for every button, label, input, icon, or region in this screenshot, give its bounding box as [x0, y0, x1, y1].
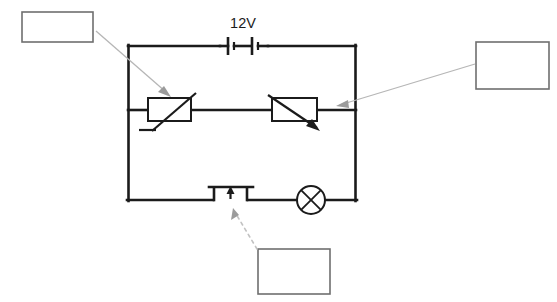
leader-variable-resistor	[336, 64, 475, 108]
lamp-symbol	[297, 186, 325, 214]
leader-switch-line	[236, 214, 257, 249]
callout-box-switch[interactable]	[258, 249, 330, 294]
leader-switch	[231, 208, 257, 249]
variable-resistor-symbol	[268, 95, 320, 131]
leader-thermistor-line	[96, 31, 166, 92]
circuit-svg: 12V	[0, 0, 557, 302]
battery-symbol	[220, 37, 268, 55]
callout-switch-rect[interactable]	[258, 249, 330, 294]
callout-variable-resistor-rect[interactable]	[476, 42, 549, 89]
callout-box-variable-resistor[interactable]	[476, 42, 549, 89]
circuit-diagram-canvas: 12V	[0, 0, 557, 302]
leader-thermistor-arrow-head	[158, 86, 171, 97]
push-switch-symbol	[209, 186, 253, 200]
callout-box-thermistor[interactable]	[22, 12, 93, 42]
callout-thermistor-rect[interactable]	[22, 12, 93, 42]
thermistor-symbol	[139, 93, 196, 131]
battery-voltage-label: 12V	[230, 15, 256, 31]
leader-variable-resistor-arrow-head	[336, 100, 349, 108]
leader-thermistor	[96, 31, 171, 97]
leader-variable-resistor-line	[343, 64, 475, 104]
